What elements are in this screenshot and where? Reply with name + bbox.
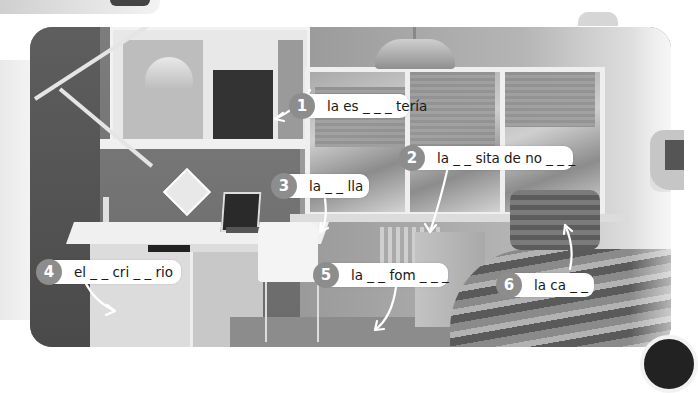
vocab-blank-text: la _ _ lla xyxy=(309,178,363,194)
window-blind xyxy=(505,72,595,127)
vocab-blank-text: la es _ _ _ tería xyxy=(327,98,427,114)
vocab-blank-text: la ca _ _ xyxy=(534,277,588,293)
tv-screen xyxy=(213,70,273,140)
vocab-label-2: 2 la _ _ sita de no _ _ _ xyxy=(409,146,573,170)
shelf-compartment xyxy=(278,40,303,140)
decorative-edge xyxy=(0,60,34,320)
label-number-6: 6 xyxy=(496,272,522,298)
laptop xyxy=(221,192,262,232)
vocab-blank-text: la _ _ fom _ _ _ xyxy=(351,267,449,283)
pendant-lamp xyxy=(375,39,455,69)
book xyxy=(148,245,190,252)
vocab-blank-text: el _ _ cri _ _ rio xyxy=(74,264,173,280)
vocab-label-6: 6 la ca _ _ xyxy=(506,273,594,297)
label-number-3: 3 xyxy=(271,173,297,199)
chair-legs xyxy=(265,282,319,342)
chair xyxy=(258,222,318,282)
vocab-label-5: 5 la _ _ fom _ _ _ xyxy=(323,263,448,287)
vocab-blank-text: la _ _ sita de no _ _ _ xyxy=(437,150,575,166)
vocab-label-4: 4 el _ _ cri _ _ rio xyxy=(46,260,181,284)
decorative-edge xyxy=(110,0,150,6)
shelf-compartment xyxy=(123,40,203,140)
label-number-4: 4 xyxy=(36,259,62,285)
label-number-1: 1 xyxy=(289,93,315,119)
decorative-wheel-icon xyxy=(640,335,698,393)
shelf-unit xyxy=(110,27,310,147)
pillow xyxy=(510,190,600,250)
vocab-label-3: 3 la _ _ lla xyxy=(281,174,369,198)
label-number-2: 2 xyxy=(399,145,425,171)
decorative-hand-icon xyxy=(578,12,618,26)
decorative-object xyxy=(665,140,684,170)
label-number-5: 5 xyxy=(313,262,339,288)
vocab-label-1: 1 la es _ _ _ tería xyxy=(299,94,409,118)
